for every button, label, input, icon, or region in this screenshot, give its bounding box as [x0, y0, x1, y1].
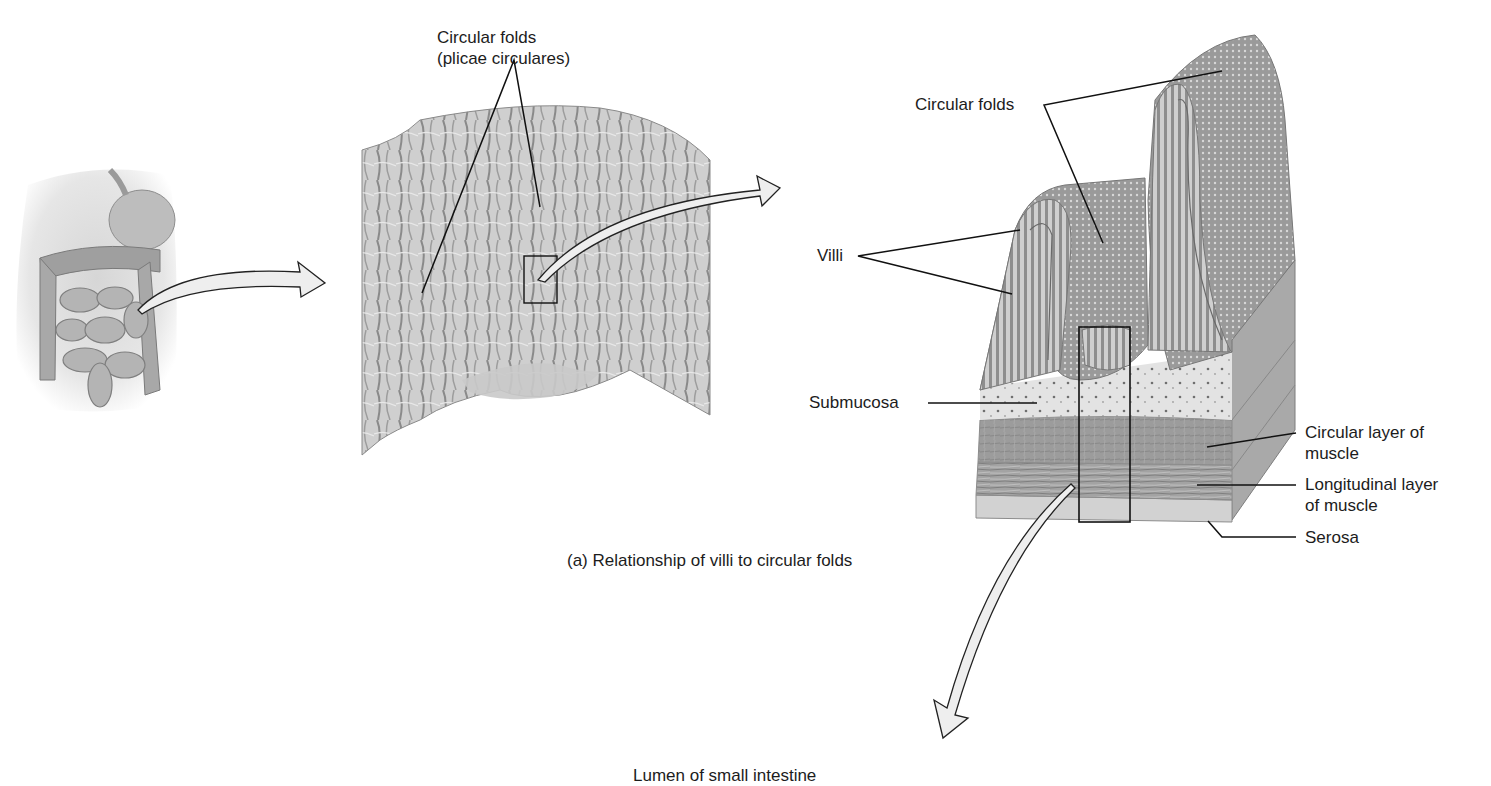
label-lumen: Lumen of small intestine — [633, 765, 816, 786]
label-longitudinal-muscle-line2: of muscle — [1305, 495, 1438, 516]
label-circular-muscle-line2: muscle — [1305, 443, 1424, 464]
figure-caption: (a) Relationship of villi to circular fo… — [567, 550, 852, 571]
label-circular-muscle: Circular layer of muscle — [1305, 422, 1424, 464]
circular-fold-cutaway — [976, 35, 1295, 522]
label-villi: Villi — [817, 245, 843, 266]
intestine-segment-photo — [362, 106, 710, 455]
label-circular-folds-line1: Circular folds — [437, 27, 570, 48]
label-circular-folds-plicae: Circular folds (plicae circulares) — [437, 27, 570, 69]
label-longitudinal-muscle: Longitudinal layer of muscle — [1305, 474, 1438, 516]
label-circular-folds-right: Circular folds — [915, 94, 1014, 115]
label-serosa: Serosa — [1305, 527, 1359, 548]
figure-artwork — [0, 0, 1491, 786]
abdomen-illustration — [16, 169, 176, 411]
zoom-arrow-3 — [934, 484, 1075, 738]
label-longitudinal-muscle-line1: Longitudinal layer — [1305, 474, 1438, 495]
label-circular-muscle-line1: Circular layer of — [1305, 422, 1424, 443]
label-submucosa: Submucosa — [809, 392, 899, 413]
label-circular-folds-line2: (plicae circulares) — [437, 48, 570, 69]
